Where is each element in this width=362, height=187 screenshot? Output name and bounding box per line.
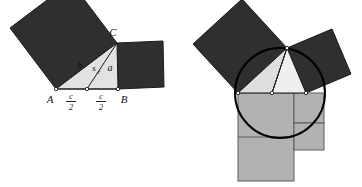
label-half-base-left: c 2 xyxy=(66,92,76,112)
label-vertex-c: C xyxy=(109,26,117,38)
label-vertex-b: B xyxy=(121,93,128,105)
gray-rect-right-upper xyxy=(294,93,324,123)
square-on-side-a xyxy=(117,41,164,89)
right-vertex-dot-c xyxy=(285,46,288,49)
geometry-figure: C A B b a s c c 2 c xyxy=(0,0,362,187)
right-panel xyxy=(193,0,351,181)
label-side-a: a xyxy=(108,62,113,73)
half-base-left-denominator: 2 xyxy=(69,103,73,112)
label-median-subscript-c: c xyxy=(98,68,101,75)
right-vertex-dot-a xyxy=(236,91,239,94)
vertex-dot-b xyxy=(116,87,119,90)
label-vertex-a: A xyxy=(46,93,54,105)
half-base-right-denominator: 2 xyxy=(99,103,103,112)
right-vertex-dot-b xyxy=(304,91,307,94)
half-base-right-numerator: c xyxy=(99,92,103,101)
right-vertex-dot-m xyxy=(270,91,273,94)
label-half-base-right: c 2 xyxy=(96,92,106,112)
figure-canvas: C A B b a s c c 2 c xyxy=(0,0,362,187)
vertex-dot-m xyxy=(85,87,88,90)
vertex-dot-a xyxy=(54,87,57,90)
half-base-left-numerator: c xyxy=(69,92,73,101)
label-median-s: s xyxy=(92,63,96,73)
label-side-b: b xyxy=(78,60,83,71)
left-panel: C A B b a s c c 2 c xyxy=(10,0,164,112)
